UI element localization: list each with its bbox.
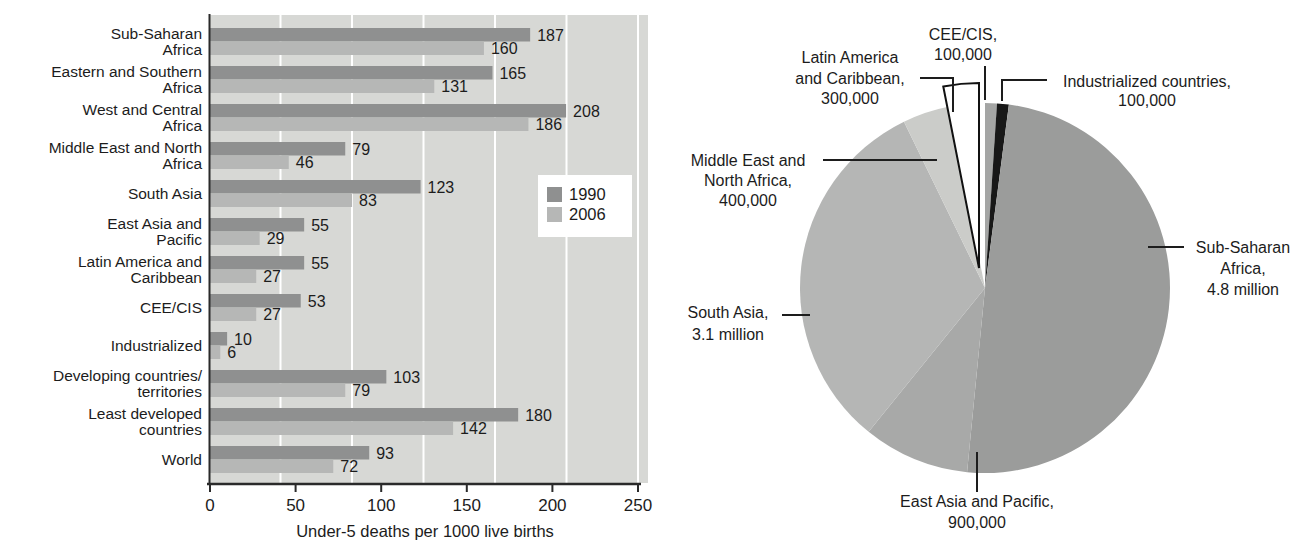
pie-chart: CEE/CIS,100,000Industrialized countries,… [660,0,1301,551]
x-tick-label: 100 [367,496,395,515]
pie-label-industrialized-countries: 100,000 [1118,92,1176,109]
pie-label-cee-cis: CEE/CIS, [929,26,997,43]
bar-plot: 187160Sub-SaharanAfrica165131Eastern and… [49,14,653,515]
category-label-least-developed-countries: countries [139,421,202,438]
bar-value-1990-sub-saharan-africa: 187 [537,27,564,44]
bar-value-2006-south-asia: 83 [359,192,377,209]
category-label-middle-east-north-africa: Middle East and North [49,139,202,156]
pie-plot: CEE/CIS,100,000Industrialized countries,… [688,26,1291,531]
bar-value-1990-world: 93 [376,445,394,462]
pie-label-latin-america-caribbean: Latin America [802,49,899,66]
pie-label-middle-east-north-africa: Middle East and [691,152,806,169]
pie-label-industrialized-countries: Industrialized countries, [1063,73,1231,90]
x-tick-label: 200 [538,496,566,515]
under5-mortality-figure: 187160Sub-SaharanAfrica165131Eastern and… [0,0,1301,551]
bar-1990-east-asia-pacific [210,218,304,232]
x-tick-label: 150 [453,496,481,515]
bar-value-2006-eastern-southern-africa: 131 [441,78,468,95]
bar-value-2006-industrialized: 6 [227,344,236,361]
legend-label-1990: 1990 [569,185,606,203]
bar-value-2006-middle-east-north-africa: 46 [296,154,314,171]
category-label-world: World [162,451,202,468]
category-label-developing-countries-territories: Developing countries/ [53,367,203,384]
bar-2006-south-asia [210,194,352,208]
x-tick-label: 250 [624,496,652,515]
category-label-latin-america-caribbean: Latin America and [78,253,202,270]
pie-label-sub-saharan-africa: 4.8 million [1207,281,1279,298]
pie-label-sub-saharan-africa: Africa, [1220,260,1265,277]
bar-value-1990-developing-countries-territories: 103 [393,369,420,386]
x-tick-label: 0 [205,496,214,515]
bar-1990-south-asia [210,180,421,194]
category-label-least-developed-countries: Least developed [88,405,202,422]
bar-2006-east-asia-pacific [210,232,260,246]
pie-label-sub-saharan-africa: Sub-Saharan [1196,239,1290,256]
bar-value-1990-east-asia-pacific: 55 [311,217,329,234]
bar-1990-industrialized [210,332,227,346]
pie-label-middle-east-north-africa: 400,000 [719,192,777,209]
pie-label-south-asia: South Asia, [688,304,769,321]
pie-label-east-asia-pacific: East Asia and Pacific, [900,493,1054,510]
category-label-industrialized: Industrialized [111,337,202,354]
bar-value-2006-least-developed-countries: 142 [460,420,487,437]
pie-label-latin-america-caribbean: and Caribbean, [795,70,904,87]
x-tick-label: 50 [286,496,305,515]
bar-2006-sub-saharan-africa [210,42,484,56]
bar-value-2006-sub-saharan-africa: 160 [491,40,518,57]
category-label-east-asia-pacific: East Asia and [107,215,202,232]
legend-label-2006: 2006 [569,205,606,223]
category-label-developing-countries-territories: territories [137,383,202,400]
category-label-eastern-southern-africa: Eastern and Southern [51,63,202,80]
category-label-south-asia: South Asia [128,185,202,202]
bar-2006-latin-america-caribbean [210,270,256,284]
bar-value-1990-eastern-southern-africa: 165 [499,65,526,82]
x-axis-title: Under-5 deaths per 1000 live births [296,522,554,540]
category-label-middle-east-north-africa: Africa [162,155,202,172]
category-label-cee-cis: CEE/CIS [140,299,202,316]
bar-1990-middle-east-north-africa [210,142,345,156]
bar-1990-latin-america-caribbean [210,256,304,270]
bar-1990-west-central-africa [210,104,566,118]
bar-2006-eastern-southern-africa [210,80,434,94]
bar-2006-industrialized [210,346,220,360]
bar-2006-cee-cis [210,308,256,322]
bar-value-2006-developing-countries-territories: 79 [352,382,370,399]
bar-2006-world [210,460,333,474]
bar-value-2006-world: 72 [340,458,358,475]
legend-swatch-2006 [547,207,562,222]
bar-value-1990-latin-america-caribbean: 55 [311,255,329,272]
category-label-sub-saharan-africa: Sub-Saharan [111,25,202,42]
bar-chart: 187160Sub-SaharanAfrica165131Eastern and… [0,0,660,551]
legend-swatch-1990 [547,187,562,202]
bar-value-2006-cee-cis: 27 [263,306,281,323]
pie-label-east-asia-pacific: 900,000 [948,514,1006,531]
pie-label-middle-east-north-africa: North Africa, [704,172,792,189]
bar-value-1990-middle-east-north-africa: 79 [352,141,370,158]
category-label-latin-america-caribbean: Caribbean [130,269,202,286]
bar-value-1990-industrialized: 10 [234,331,252,348]
bar-value-2006-west-central-africa: 186 [535,116,562,133]
bar-value-1990-west-central-africa: 208 [573,103,600,120]
bar-2006-least-developed-countries [210,422,453,436]
bar-1990-cee-cis [210,294,301,308]
bar-2006-middle-east-north-africa [210,156,289,170]
bar-2006-developing-countries-territories [210,384,345,398]
category-label-eastern-southern-africa: Africa [162,79,202,96]
pie-leader-industrialized-countries [1002,80,1047,101]
category-label-west-central-africa: Africa [162,117,202,134]
category-label-west-central-africa: West and Central [83,101,202,118]
bar-1990-sub-saharan-africa [210,28,530,42]
pie-label-latin-america-caribbean: 300,000 [821,90,879,107]
bar-value-1990-least-developed-countries: 180 [525,407,552,424]
bar-value-2006-latin-america-caribbean: 27 [263,268,281,285]
pie-label-cee-cis: 100,000 [934,46,992,63]
category-label-east-asia-pacific: Pacific [156,231,202,248]
bar-2006-west-central-africa [210,118,528,132]
bar-value-1990-south-asia: 123 [428,179,455,196]
bar-value-2006-east-asia-pacific: 29 [267,230,285,247]
pie-label-south-asia: 3.1 million [692,326,764,343]
category-label-sub-saharan-africa: Africa [162,41,202,58]
bar-value-1990-cee-cis: 53 [308,293,326,310]
